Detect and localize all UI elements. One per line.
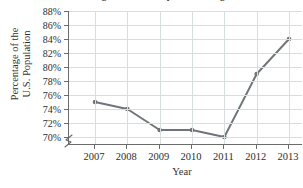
y-tick-label: 80% <box>19 62 61 73</box>
y-tick-mark <box>64 109 69 110</box>
gridline-vertical <box>257 11 258 144</box>
gridline-vertical <box>224 11 225 144</box>
chart-title: Percentage of the U.S. Population Using … <box>38 0 303 1</box>
x-tick-label: 2007 <box>84 151 105 162</box>
gridline-horizontal <box>69 67 302 68</box>
x-tick-mark <box>126 144 127 149</box>
y-tick-mark <box>64 25 69 26</box>
y-tick-mark <box>64 39 69 40</box>
y-tick-mark <box>64 123 69 124</box>
data-series <box>69 11 297 144</box>
x-axis-title: Year <box>68 166 296 177</box>
x-tick-mark <box>223 144 224 149</box>
x-tick-mark <box>94 144 95 149</box>
x-tick-label: 2010 <box>181 151 202 162</box>
x-tick-label: 2012 <box>245 151 266 162</box>
y-tick-label: 72% <box>19 118 61 129</box>
x-tick-mark <box>288 144 289 149</box>
y-tick-label: 82% <box>19 48 61 59</box>
gridline-vertical <box>160 11 161 144</box>
axis-break-icon <box>61 134 75 148</box>
y-tick-label: 70% <box>19 132 61 143</box>
gridline-horizontal <box>69 11 302 12</box>
gridline-vertical <box>289 11 290 144</box>
gridline-horizontal <box>69 123 302 124</box>
y-tick-label: 86% <box>19 20 61 31</box>
plot-inner <box>69 11 296 144</box>
gridline-horizontal <box>69 95 302 96</box>
plot-area <box>68 11 296 144</box>
y-tick-mark <box>64 95 69 96</box>
y-tick-mark <box>64 53 69 54</box>
gridline-vertical <box>127 11 128 144</box>
gridline-horizontal <box>69 39 302 40</box>
y-tick-mark <box>64 67 69 68</box>
gridline-horizontal <box>69 109 302 110</box>
x-tick-mark <box>191 144 192 149</box>
x-tick-mark <box>256 144 257 149</box>
gridline-vertical <box>192 11 193 144</box>
gridline-horizontal <box>69 25 302 26</box>
y-tick-label: 84% <box>19 34 61 45</box>
line-chart: Percentage of the U.S. Population Using … <box>0 0 303 188</box>
x-tick-mark <box>159 144 160 149</box>
gridline-horizontal <box>69 137 302 138</box>
y-tick-label: 74% <box>19 104 61 115</box>
x-tick-label: 2009 <box>148 151 169 162</box>
gridline-vertical <box>95 11 96 144</box>
gridline-horizontal <box>69 81 302 82</box>
y-tick-label: 76% <box>19 90 61 101</box>
x-axis-line <box>68 144 302 145</box>
x-tick-label: 2011 <box>213 151 234 162</box>
x-tick-label: 2013 <box>278 151 299 162</box>
y-tick-mark <box>64 81 69 82</box>
gridline-horizontal <box>69 53 302 54</box>
y-tick-label: 78% <box>19 76 61 87</box>
x-tick-label: 2008 <box>116 151 137 162</box>
y-tick-label: 88% <box>19 6 61 17</box>
y-tick-mark <box>64 11 69 12</box>
